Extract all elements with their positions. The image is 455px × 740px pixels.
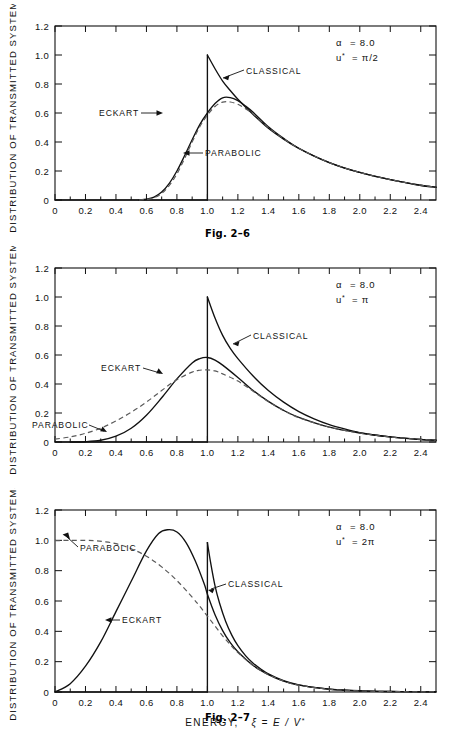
y-tick-label: 0.2	[35, 408, 49, 419]
curve-label-parabolic-2-8: PARABOLIC	[80, 543, 137, 553]
plot-area-2-7: 00.20.40.60.81.01.21.41.61.82.02.22.400.…	[0, 246, 455, 476]
y-tick-label: 0.8	[35, 79, 49, 90]
y-tick-label: 0.6	[35, 350, 49, 361]
x-tick-label: 2.4	[414, 205, 428, 216]
x-tick-label: 0.2	[78, 205, 92, 216]
y-tick-label: 0.4	[35, 379, 49, 390]
x-tick-label: 1.8	[322, 447, 336, 458]
plot-area-2-6: 00.20.40.60.81.01.21.41.61.82.02.22.400.…	[0, 4, 455, 234]
x-tick-label: 0.6	[139, 697, 153, 708]
x-tick-label: 2.2	[383, 447, 397, 458]
x-tick-label: 1.8	[322, 205, 336, 216]
x-axis-title: ENERGY, ξ = E / V*	[185, 717, 306, 730]
x-tick-label: 0.6	[139, 447, 153, 458]
curve-label-classical-2-8: CLASSICAL	[228, 579, 283, 589]
x-tick-label: 1.8	[322, 697, 336, 708]
y-tick-label: 0	[43, 437, 49, 448]
y-axis-title: DISTRIBUTION OF TRANSMITTED SYSTEMS	[7, 246, 18, 475]
y-tick-label: 0	[43, 195, 49, 206]
param-alpha-value-2-8: = 8.0	[350, 521, 375, 532]
x-tick-label: 0	[52, 205, 58, 216]
x-tick-label: 0	[52, 447, 58, 458]
y-tick-label: 0.6	[35, 108, 49, 119]
x-tick-label: 1.0	[200, 205, 214, 216]
curve-eckart	[139, 97, 436, 200]
curve-label-classical-2-6: CLASSICAL	[246, 66, 301, 76]
x-tick-label: 1.2	[231, 697, 245, 708]
x-tick-label: 0.4	[109, 205, 123, 216]
curve-parabolic	[55, 370, 436, 440]
figure-panel-2-7: 00.20.40.60.81.01.21.41.61.82.02.22.400.…	[0, 246, 455, 482]
param-alpha-value-2-6: = 8.0	[350, 37, 375, 48]
x-tick-label: 0	[52, 697, 58, 708]
param-u-superscript: *	[342, 536, 346, 543]
x-axis-title-symbol: ξ = E / V	[252, 717, 302, 729]
param-u-2-8: u*	[336, 536, 346, 548]
y-tick-label: 1.2	[35, 21, 49, 32]
y-tick-label: 0.2	[35, 166, 49, 177]
figure-panel-2-6: 00.20.40.60.81.01.21.41.61.82.02.22.400.…	[0, 4, 455, 240]
y-tick-label: 0.4	[35, 137, 49, 148]
x-axis-title-word: ENERGY,	[185, 717, 251, 728]
y-axis-title: DISTRIBUTION OF TRANSMITTED SYSTEMS	[7, 4, 18, 233]
param-alpha-2-7: α	[336, 279, 342, 290]
x-tick-label: 2.0	[353, 205, 367, 216]
x-tick-label: 0.2	[78, 447, 92, 458]
x-tick-label: 2.0	[353, 447, 367, 458]
param-u-value-2-6: = π/2	[352, 52, 379, 63]
plot-area-2-8: 00.20.40.60.81.01.21.41.61.82.02.22.400.…	[0, 488, 455, 740]
curve-classical	[207, 543, 436, 692]
param-alpha-value-2-7: = 8.0	[350, 279, 375, 290]
x-tick-label: 1.4	[261, 447, 275, 458]
param-u-2-7: u*	[336, 294, 346, 306]
curve-classical	[207, 55, 436, 187]
curve-label-classical-2-7: CLASSICAL	[253, 331, 308, 341]
x-tick-label: 1.4	[261, 697, 275, 708]
x-tick-label: 0.8	[170, 447, 184, 458]
curve-parabolic	[139, 102, 436, 200]
param-alpha-2-6: α	[336, 37, 342, 48]
curve-eckart	[55, 530, 436, 692]
param-u-value-2-7: = π	[352, 294, 369, 305]
y-tick-label: 1.0	[35, 292, 49, 303]
x-tick-label: 0.8	[170, 697, 184, 708]
y-tick-label: 1.2	[35, 263, 49, 274]
curve-classical	[207, 297, 436, 440]
x-tick-label: 1.6	[292, 447, 306, 458]
x-tick-label: 1.6	[292, 697, 306, 708]
y-tick-label: 0.8	[35, 565, 49, 576]
y-axis-title: DISTRIBUTION OF TRANSMITTED SYSTEMS	[7, 488, 18, 721]
x-tick-label: 2.0	[353, 697, 367, 708]
y-tick-label: 1.0	[35, 50, 49, 61]
curve-label-eckart-2-7: ECKART	[101, 363, 141, 373]
caption-2-6: Fig. 2–6	[0, 228, 455, 239]
param-u-2-6: u*	[336, 52, 346, 64]
x-tick-label: 0.8	[170, 205, 184, 216]
x-tick-label: 2.2	[383, 205, 397, 216]
x-tick-label: 2.2	[383, 697, 397, 708]
x-tick-label: 0.4	[109, 697, 123, 708]
curve-label-eckart-2-8: ECKART	[122, 615, 162, 625]
param-u-superscript: *	[342, 52, 346, 59]
plot-frame	[55, 268, 436, 442]
curve-label-parabolic-2-6: PARABOLIC	[205, 148, 262, 158]
x-tick-label: 1.0	[200, 697, 214, 708]
x-tick-label: 2.4	[414, 447, 428, 458]
param-alpha-2-8: α	[336, 521, 342, 532]
figure-page: 00.20.40.60.81.01.21.41.61.82.02.22.400.…	[0, 0, 455, 740]
x-axis-title-superscript: *	[302, 717, 306, 724]
y-tick-label: 1.0	[35, 535, 49, 546]
curve-parabolic	[55, 540, 436, 692]
param-u-value-2-8: = 2π	[352, 536, 375, 547]
x-tick-label: 0.6	[139, 205, 153, 216]
y-tick-label: 0.8	[35, 321, 49, 332]
figure-panel-2-8: 00.20.40.60.81.01.21.41.61.82.02.22.400.…	[0, 488, 455, 740]
curve-label-eckart-2-6: ECKART	[99, 108, 139, 118]
x-tick-label: 0.4	[109, 447, 123, 458]
x-tick-label: 1.2	[231, 447, 245, 458]
param-u-superscript: *	[342, 294, 346, 301]
y-tick-label: 0	[43, 687, 49, 698]
y-tick-label: 0.4	[35, 626, 49, 637]
leader-lines-2-7	[89, 335, 251, 432]
y-tick-label: 0.2	[35, 656, 49, 667]
